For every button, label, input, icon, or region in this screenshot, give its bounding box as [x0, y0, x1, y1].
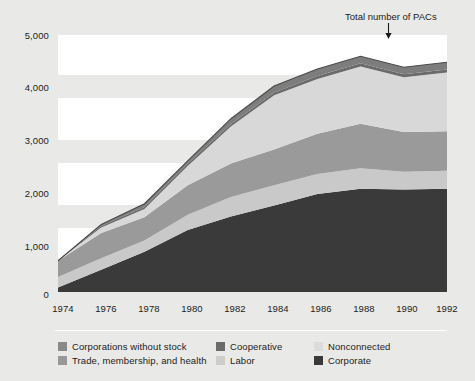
- legend-divider: [55, 330, 447, 331]
- y-tick-3000: 3,000: [5, 135, 49, 146]
- legend-swatch-icon: [314, 356, 323, 365]
- legend-item-corporate: Corporate: [314, 355, 458, 366]
- legend-item-labor: Labor: [216, 355, 308, 366]
- annotation-arrow-icon: [383, 23, 394, 40]
- legend-label: Labor: [230, 355, 255, 366]
- x-tick-1990: 1990: [387, 303, 427, 314]
- legend-swatch-icon: [314, 342, 323, 351]
- stacked-area-chart: [0, 0, 475, 300]
- legend-swatch-icon: [58, 356, 67, 365]
- legend-swatch-icon: [216, 342, 225, 351]
- chart-legend: Corporations without stock Cooperative N…: [58, 339, 458, 367]
- total-annotation-label: Total number of PACs: [345, 11, 437, 22]
- x-tick-1974: 1974: [43, 303, 83, 314]
- y-tick-4000: 4,000: [5, 82, 49, 93]
- x-tick-1982: 1982: [215, 303, 255, 314]
- x-tick-1988: 1988: [344, 303, 384, 314]
- x-tick-1980: 1980: [172, 303, 212, 314]
- legend-label: Corporate: [328, 355, 371, 366]
- legend-label: Nonconnected: [328, 341, 390, 352]
- x-tick-1992: 1992: [427, 303, 467, 314]
- legend-item-cooperative: Cooperative: [216, 341, 308, 352]
- legend-label: Cooperative: [230, 341, 282, 352]
- x-tick-1984: 1984: [258, 303, 298, 314]
- chart-page: 5,000 4,000 3,000 2,000 1,000 0 1974 197…: [0, 0, 475, 381]
- x-tick-1978: 1978: [129, 303, 169, 314]
- legend-swatch-icon: [58, 342, 67, 351]
- x-tick-1976: 1976: [86, 303, 126, 314]
- legend-swatch-icon: [216, 356, 225, 365]
- legend-item-nonconnected: Nonconnected: [314, 341, 458, 352]
- y-tick-1000: 1,000: [5, 241, 49, 252]
- y-tick-5000: 5,000: [5, 30, 49, 41]
- legend-label: Corporations without stock: [72, 341, 187, 352]
- y-tick-0: 0: [5, 289, 49, 300]
- legend-item-trade-membership-health: Trade, membership, and health: [58, 355, 210, 366]
- area-layers: [58, 56, 447, 292]
- y-tick-2000: 2,000: [5, 188, 49, 199]
- plot-area: 5,000 4,000 3,000 2,000 1,000 0 1974 197…: [0, 0, 475, 300]
- legend-item-corporations-without-stock: Corporations without stock: [58, 341, 210, 352]
- x-tick-1986: 1986: [301, 303, 341, 314]
- legend-label: Trade, membership, and health: [72, 355, 207, 366]
